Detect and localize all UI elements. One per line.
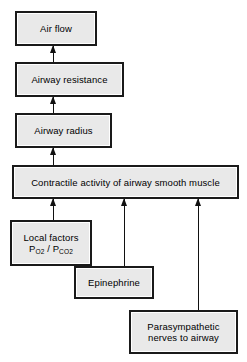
pco2-subscript-count: 2 — [69, 248, 73, 255]
node-local-factors-label-line2: PO2 / PCO2 — [27, 243, 75, 255]
arrow-head — [50, 198, 56, 206]
arrow-head — [50, 45, 56, 53]
node-epinephrine[interactable]: Epinephrine — [76, 268, 152, 297]
arrow-shaft — [124, 198, 125, 268]
node-airway-radius-label: Airway radius — [32, 125, 94, 136]
pco2-subscript-gas: CO — [59, 248, 69, 255]
node-local-factors-label-line1: Local factors — [21, 232, 80, 243]
node-parasympathetic[interactable]: Parasympathetic nerves to airway — [131, 312, 236, 352]
node-parasympathetic-label: Parasympathetic nerves to airway — [145, 321, 221, 343]
arrow-head — [195, 198, 201, 206]
node-contractile-activity-label: Contractile activity of airway smooth mu… — [29, 177, 222, 188]
node-airway-radius[interactable]: Airway radius — [17, 115, 110, 146]
node-local-factors[interactable]: Local factors PO2 / PCO2 — [12, 222, 90, 264]
arrow-head — [121, 198, 127, 206]
gas-separator: / P — [44, 243, 59, 254]
po2-subscript-gas: O — [35, 248, 40, 255]
node-air-flow[interactable]: Air flow — [17, 13, 95, 44]
node-air-flow-label: Air flow — [38, 23, 74, 34]
arrow-head — [50, 96, 56, 104]
flowchart-diagram: Air flow Airway resistance Airway radius… — [0, 0, 247, 362]
po2-subscript-count: 2 — [41, 248, 45, 255]
node-contractile-activity[interactable]: Contractile activity of airway smooth mu… — [14, 167, 237, 197]
arrow-shaft — [198, 198, 199, 312]
arrow-head — [50, 147, 56, 155]
node-airway-resistance[interactable]: Airway resistance — [17, 64, 122, 95]
node-epinephrine-label: Epinephrine — [86, 277, 142, 288]
node-airway-resistance-label: Airway resistance — [29, 74, 109, 85]
